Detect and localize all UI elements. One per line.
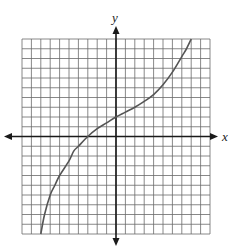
- x-axis-left-arrow-icon: [4, 133, 12, 140]
- y-axis-up-arrow-icon: [113, 26, 120, 34]
- y-axis-down-arrow-icon: [113, 238, 120, 246]
- y-axis-label: y: [110, 10, 118, 25]
- axes: [4, 26, 218, 246]
- x-axis-right-arrow-icon: [210, 133, 218, 140]
- x-axis-label: x: [221, 129, 228, 144]
- function-graph: y x: [0, 0, 239, 250]
